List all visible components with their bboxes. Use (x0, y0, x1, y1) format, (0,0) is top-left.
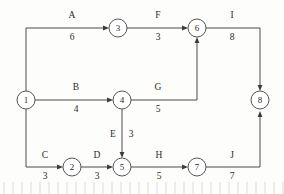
edge-label-G-weight: 5 (156, 104, 161, 114)
edge-label-G-name: G (155, 82, 162, 92)
edge-path-G (131, 39, 197, 100)
edge-label-E-weight: 3 (129, 129, 134, 139)
edge-label-E-name: E (110, 129, 116, 139)
edge-label-B-weight: 4 (74, 104, 79, 114)
edge-label-D-weight: 3 (95, 171, 100, 181)
arrow-head-C (57, 165, 63, 170)
edge-label-C-name: C (42, 150, 48, 160)
node-5[interactable]: 5 (113, 158, 131, 176)
arrow-head-I (258, 85, 263, 91)
node-8[interactable]: 8 (251, 91, 269, 109)
edge-label-F-name: F (155, 10, 160, 20)
network-diagram-canvas: A 6 B 4 C 3 D 3 E 3 F 3 G 5 H 5 I 8 J 7 (0, 0, 284, 194)
edge-label-H-name: H (156, 150, 163, 160)
node-1-label: 1 (24, 95, 29, 105)
arrow-head-F (182, 26, 188, 31)
edge-path-A (26, 28, 107, 91)
node-2-label: 2 (70, 162, 75, 172)
node-8-label: 8 (258, 95, 263, 105)
network-diagram: A 6 B 4 C 3 D 3 E 3 F 3 G 5 H 5 I 8 J 7 (0, 0, 284, 194)
edge-label-J-weight: 7 (230, 171, 235, 181)
node-4[interactable]: 4 (113, 91, 131, 109)
node-7-label: 7 (195, 162, 200, 172)
edge-label-I-name: I (230, 10, 233, 20)
node-6[interactable]: 6 (188, 19, 206, 37)
arrow-head-J (258, 111, 263, 117)
edge-label-B-name: B (73, 82, 79, 92)
arrow-head-G (195, 37, 200, 43)
edge-label-F-weight: 3 (156, 32, 161, 42)
edge-label-J-name: J (230, 150, 234, 160)
node-3-label: 3 (116, 23, 121, 33)
node-5-label: 5 (120, 162, 125, 172)
node-4-label: 4 (120, 95, 125, 105)
node-3[interactable]: 3 (109, 19, 127, 37)
node-6-label: 6 (195, 23, 200, 33)
edge-label-D-name: D (94, 150, 101, 160)
arrow-head-A (103, 26, 109, 31)
edge-label-H-weight: 5 (157, 171, 162, 181)
node-7[interactable]: 7 (188, 158, 206, 176)
arrow-head-E (120, 152, 125, 158)
edge-labels: A 6 B 4 C 3 D 3 E 3 F 3 G 5 H 5 I 8 J 7 (42, 10, 235, 181)
node-1[interactable]: 1 (17, 91, 35, 109)
edge-label-A-name: A (69, 10, 76, 20)
edge-label-C-weight: 3 (43, 171, 48, 181)
node-2[interactable]: 2 (63, 158, 81, 176)
edge-label-A-weight: 6 (70, 32, 75, 42)
arrow-head-H (182, 165, 188, 170)
arrow-head-B (107, 98, 113, 103)
arrow-head-D (107, 165, 113, 170)
edge-paths (26, 26, 262, 170)
edge-label-I-weight: 8 (230, 32, 235, 42)
